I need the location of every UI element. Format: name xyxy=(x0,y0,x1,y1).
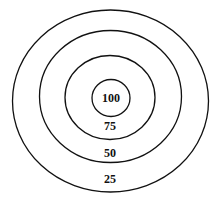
ring-label-25: 25 xyxy=(104,172,116,186)
ring-label-50: 50 xyxy=(104,146,116,160)
target-diagram: 100 75 50 25 xyxy=(0,0,223,197)
ring-label-75: 75 xyxy=(104,119,116,133)
ring-label-100: 100 xyxy=(102,91,120,105)
